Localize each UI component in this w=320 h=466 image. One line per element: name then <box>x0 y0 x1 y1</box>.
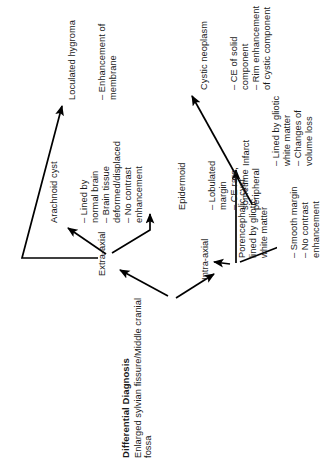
page-subtitle: Enlarged sylvian fissure/Middle cranial … <box>133 283 153 458</box>
edge-intra-to-porencephalic <box>214 262 230 264</box>
node-arachnoid-cyst-title: Arachnoid cyst <box>49 103 60 223</box>
node-cystic-neoplasm-bullets: – CE of solid component – Rim enhancemen… <box>229 0 273 90</box>
flowchart-canvas: Differential Diagnosis Enlarged sylvian … <box>0 0 277 466</box>
node-epidermoid-title: Epidermoid <box>177 110 188 210</box>
node-cystic-neoplasm-title: Cystic neoplasm <box>199 0 210 90</box>
node-loculated-hygroma-bullets: – Enhancement of membrane <box>97 0 119 100</box>
node-porencephalic-cyst-title: Porencephalic cyst lined by gliotic whit… <box>237 152 270 258</box>
branch-label-extra-axial: Extra-axial <box>97 232 108 276</box>
branch-label-intra-axial: Intra-axial <box>200 239 211 280</box>
node-loculated-hygroma-title: Loculated hygroma <box>67 0 78 100</box>
node-arachnoid-cyst: Arachnoid cyst – Lined by normal brain –… <box>30 103 163 223</box>
diagram-rotation-wrapper: Differential Diagnosis Enlarged sylvian … <box>0 0 277 466</box>
node-cystic-neoplasm: Cystic neoplasm – CE of solid component … <box>180 0 277 90</box>
node-arachnoid-cyst-bullets: – Lined by normal brain – Brain tissue d… <box>79 103 145 223</box>
diagram-title-block: Differential Diagnosis Enlarged sylvian … <box>120 283 153 458</box>
node-loculated-hygroma: Loculated hygroma – Enhancement of membr… <box>48 0 138 100</box>
node-porencephalic-cyst: Porencephalic cyst lined by gliotic whit… <box>218 152 277 258</box>
page-title: Differential Diagnosis <box>120 283 131 458</box>
